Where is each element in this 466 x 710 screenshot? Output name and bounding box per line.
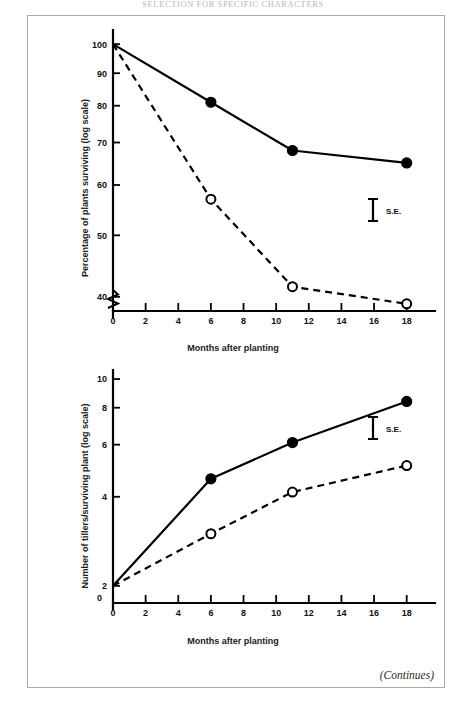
- y-ticklabel: 70: [97, 138, 107, 148]
- x-ticklabel: 4: [176, 316, 181, 326]
- data-point-filled: [287, 146, 297, 156]
- x-ticklabel: 12: [304, 316, 314, 326]
- data-point-open: [288, 488, 297, 497]
- x-ticklabel: 0: [110, 316, 115, 326]
- data-point-open: [288, 282, 297, 291]
- y-ticklabel: 10: [97, 374, 107, 384]
- series-group: [113, 401, 407, 585]
- y-ticklabel: 6: [102, 440, 107, 450]
- chart-bottom-svg: 246810 024681012141618 0 S.E. Number of …: [28, 356, 444, 656]
- x-ticklabel: 18: [402, 608, 412, 618]
- data-point-open: [206, 529, 215, 538]
- y-ticklabel: 2: [102, 581, 107, 591]
- origin-label: 0: [97, 593, 102, 603]
- x-ticklabel: 6: [208, 316, 213, 326]
- x-ticklabel: 0: [110, 608, 115, 618]
- x-ticklabel: 10: [271, 316, 281, 326]
- series-line-dashed: [113, 466, 407, 586]
- series-line-solid: [113, 44, 407, 163]
- x-ticklabel: 6: [208, 608, 213, 618]
- x-ticklabel: 8: [241, 316, 246, 326]
- se-label: S.E.: [386, 425, 401, 434]
- x-ticklabel: 8: [241, 608, 246, 618]
- running-header: SELECTION FOR SPECIFIC CHARACTERS: [0, 0, 466, 8]
- x-ticklabel: 16: [369, 316, 379, 326]
- y-ticklabel: 100: [92, 40, 107, 50]
- se-label: S.E.: [386, 207, 401, 216]
- x-axis-label: Months after planting: [187, 636, 279, 646]
- chart-bottom-axes: [113, 370, 435, 609]
- data-point-filled: [402, 396, 412, 406]
- x-axis-label: Months after planting: [187, 343, 279, 353]
- error-bar-icon: [368, 417, 378, 439]
- x-ticklabel: 2: [143, 608, 148, 618]
- y-ticklabel: 8: [102, 403, 107, 413]
- x-ticklabel: 16: [369, 608, 379, 618]
- chart-top-svg: 405060708090100 024681012141618 S.E. Per…: [28, 18, 444, 358]
- series-group: [113, 44, 407, 304]
- x-ticklabel: 2: [143, 316, 148, 326]
- chart-plants-surviving: 405060708090100 024681012141618 S.E. Per…: [28, 18, 444, 358]
- series-line-dashed: [113, 44, 407, 304]
- x-tick-group: [146, 303, 407, 311]
- x-ticklabel: 4: [176, 608, 181, 618]
- y-ticklabel: 90: [97, 69, 107, 79]
- x-ticklabel-group: 024681012141618: [110, 608, 411, 618]
- y-ticklabel: 50: [97, 231, 107, 241]
- data-point-filled: [206, 97, 216, 107]
- error-bar-icon: [368, 199, 378, 221]
- y-axis-label: Number of tillers/surviving plant (log s…: [80, 403, 90, 588]
- data-point-open: [402, 299, 411, 308]
- x-ticklabel: 18: [402, 316, 412, 326]
- data-point-filled: [287, 438, 297, 448]
- figure-frame: 405060708090100 024681012141618 S.E. Per…: [27, 15, 445, 688]
- data-point-open: [206, 195, 215, 204]
- data-point-open: [402, 461, 411, 470]
- y-ticklabel: 40: [97, 292, 107, 302]
- y-ticklabel-group: 246810: [97, 374, 107, 591]
- x-ticklabel: 10: [271, 608, 281, 618]
- x-ticklabel: 14: [336, 608, 346, 618]
- series-line-solid: [113, 401, 407, 585]
- x-ticklabel: 14: [336, 316, 346, 326]
- y-ticklabel: 60: [97, 180, 107, 190]
- data-point-filled: [206, 474, 216, 484]
- chart-tillers-per-plant: 246810 024681012141618 0 S.E. Number of …: [28, 356, 444, 656]
- y-ticklabel: 4: [102, 492, 107, 502]
- standard-error-annotation: S.E.: [368, 199, 401, 221]
- x-ticklabel: 12: [304, 608, 314, 618]
- continues-note: (Continues): [380, 669, 434, 681]
- y-axis-label: Percentage of plants surviving (log scal…: [80, 99, 90, 277]
- data-point-filled: [402, 158, 412, 168]
- marker-group: [206, 97, 412, 308]
- y-ticklabel: 80: [97, 101, 107, 111]
- standard-error-annotation: S.E.: [368, 417, 401, 439]
- x-tick-group: [146, 595, 407, 603]
- y-ticklabel-group: 405060708090100: [92, 40, 107, 303]
- chart-top-axes: [108, 30, 435, 318]
- x-ticklabel-group: 024681012141618: [110, 316, 411, 326]
